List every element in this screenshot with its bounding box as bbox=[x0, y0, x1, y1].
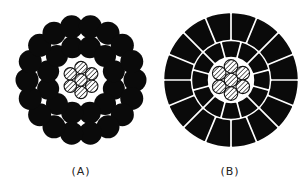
inner-layer-segment bbox=[223, 42, 240, 56]
panel-b-label: (B) bbox=[220, 165, 239, 178]
panel-b-segmented-conductor bbox=[165, 14, 297, 146]
inner-layer-segment bbox=[255, 72, 269, 89]
core-strand bbox=[86, 68, 98, 80]
outer-layer-strand bbox=[120, 50, 143, 73]
inner-layer-segment bbox=[193, 72, 207, 89]
conductor-cross-sections bbox=[0, 0, 308, 189]
core-strand bbox=[64, 68, 76, 80]
inner-layer-segment bbox=[223, 104, 240, 118]
core-strand bbox=[64, 80, 76, 92]
core-strand bbox=[212, 66, 226, 80]
core-strand bbox=[212, 80, 226, 94]
panel-a-label: (A) bbox=[71, 165, 90, 178]
panel-a-round-wire-conductor bbox=[16, 15, 147, 144]
core-strand bbox=[236, 66, 250, 80]
